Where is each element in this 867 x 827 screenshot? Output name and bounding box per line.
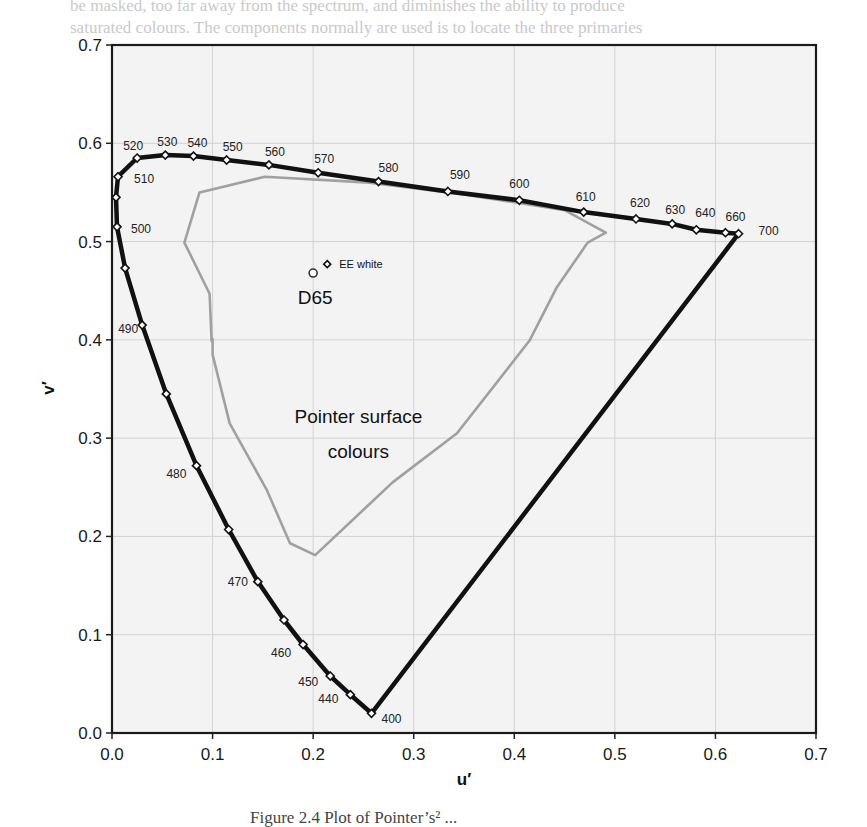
y-tick-label: 0.4 <box>78 331 102 350</box>
wavelength-label-460: 460 <box>271 646 291 660</box>
wavelength-label-510: 510 <box>134 172 154 186</box>
x-tick-label: 0.7 <box>804 745 828 764</box>
y-tick-label: 0.6 <box>78 134 102 153</box>
y-axis-title: v′ <box>39 381 58 395</box>
chromaticity-chart: 4004404504604704804905005105205305405505… <box>0 0 867 827</box>
wavelength-label-540: 540 <box>187 136 207 150</box>
wavelength-label-640: 640 <box>695 206 715 220</box>
wavelength-label-400: 400 <box>381 712 401 726</box>
wavelength-label-560: 560 <box>265 145 285 159</box>
wavelength-label-500: 500 <box>131 222 151 236</box>
y-tick-label: 0.1 <box>78 626 102 645</box>
wavelength-label-520: 520 <box>123 139 143 153</box>
x-tick-label: 0.3 <box>402 745 426 764</box>
wavelength-label-600: 600 <box>509 177 529 191</box>
d65-label: D65 <box>298 287 333 308</box>
x-tick-label: 0.2 <box>301 745 325 764</box>
x-tick-label: 0.5 <box>603 745 627 764</box>
d65-marker <box>309 269 317 277</box>
y-tick-label: 0.2 <box>78 527 102 546</box>
y-tick-label: 0.0 <box>78 724 102 743</box>
wavelength-label-450: 450 <box>298 675 318 689</box>
y-tick-label: 0.3 <box>78 429 102 448</box>
pointer-label: Pointer surface <box>295 406 423 427</box>
wavelength-label-700: 700 <box>759 224 779 238</box>
wavelength-label-530: 530 <box>157 135 177 149</box>
y-tick-label: 0.7 <box>78 36 102 55</box>
plot-area <box>112 45 816 733</box>
x-axis-title: u′ <box>457 770 471 789</box>
wavelength-label-470: 470 <box>228 575 248 589</box>
wavelength-label-590: 590 <box>450 168 470 182</box>
wavelength-label-580: 580 <box>378 161 398 175</box>
wavelength-label-660: 660 <box>725 210 745 224</box>
wavelength-label-440: 440 <box>318 692 338 706</box>
wavelength-label-480: 480 <box>166 467 186 481</box>
wavelength-label-610: 610 <box>576 190 596 204</box>
y-tick-label: 0.5 <box>78 233 102 252</box>
wavelength-label-620: 620 <box>630 196 650 210</box>
wavelength-label-550: 550 <box>223 140 243 154</box>
ee-white-label: EE white <box>339 258 382 270</box>
wavelength-label-570: 570 <box>314 152 334 166</box>
x-tick-label: 0.6 <box>704 745 728 764</box>
x-tick-label: 0.4 <box>502 745 526 764</box>
figure-caption: Figure 2.4 Plot of Pointer’s² ... <box>250 808 457 827</box>
x-tick-label: 0.1 <box>201 745 225 764</box>
wavelength-label-490: 490 <box>118 322 138 336</box>
x-tick-label: 0.0 <box>100 745 124 764</box>
wavelength-label-630: 630 <box>665 203 685 217</box>
pointer-label: colours <box>328 441 389 462</box>
